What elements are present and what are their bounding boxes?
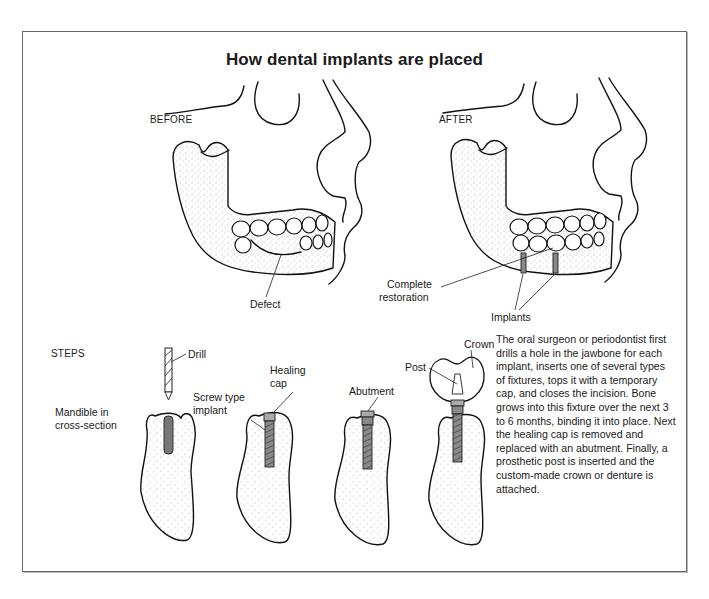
mandible-label-line2: cross-section bbox=[55, 419, 117, 432]
screw-implant-label-line2: implant bbox=[193, 404, 227, 417]
complete-restoration-callout-line1: Complete bbox=[387, 278, 432, 291]
complete-restoration-callout-line2: restoration bbox=[379, 291, 429, 304]
step-2-implant-illustration bbox=[237, 392, 293, 543]
after-label: AFTER bbox=[439, 113, 473, 126]
step-3-abutment-illustration bbox=[335, 397, 391, 545]
figure-frame: How dental implants are placed bbox=[22, 31, 687, 572]
step-1-drill-illustration bbox=[141, 348, 195, 541]
mandible-label-line1: Mandible in bbox=[55, 406, 109, 419]
before-skull-illustration bbox=[165, 80, 371, 297]
implant-post-left bbox=[521, 253, 526, 273]
healing-cap-label-line1: Healing bbox=[270, 364, 306, 377]
screw-implant-label-line1: Screw type bbox=[193, 391, 245, 404]
step-4-crown-illustration bbox=[429, 350, 485, 545]
implant-post-right bbox=[553, 253, 558, 273]
defect-callout: Defect bbox=[250, 298, 280, 311]
healing-cap-label-line2: cap bbox=[270, 377, 287, 390]
crown-label: Crown bbox=[464, 338, 494, 351]
implants-callout: Implants bbox=[491, 311, 531, 324]
procedure-description: The oral surgeon or periodontist first d… bbox=[496, 333, 676, 496]
before-label: BEFORE bbox=[150, 113, 192, 126]
drill-label: Drill bbox=[188, 348, 206, 361]
post-label: Post bbox=[405, 361, 426, 374]
steps-heading: STEPS bbox=[51, 347, 85, 360]
abutment-label: Abutment bbox=[349, 385, 394, 398]
